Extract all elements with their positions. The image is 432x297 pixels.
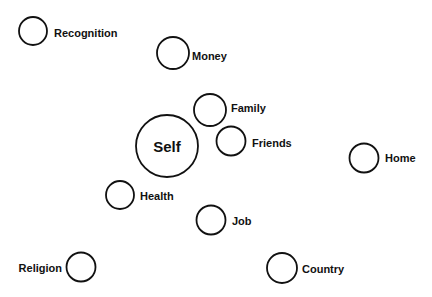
concept-diagram: Recognition Money Family Self Friends Ho… bbox=[0, 0, 432, 297]
money-label: Money bbox=[192, 50, 228, 62]
friends-label: Friends bbox=[252, 137, 292, 149]
node-money: Money bbox=[157, 37, 228, 69]
node-self: Self bbox=[136, 115, 198, 177]
health-circle bbox=[106, 181, 134, 209]
religion-label: Religion bbox=[19, 262, 63, 274]
node-family: Family bbox=[194, 94, 267, 126]
religion-circle bbox=[67, 253, 96, 282]
node-job: Job bbox=[197, 206, 252, 235]
node-country: Country bbox=[267, 253, 345, 283]
friends-circle bbox=[217, 127, 246, 156]
country-label: Country bbox=[302, 263, 345, 275]
job-label: Job bbox=[232, 215, 252, 227]
node-friends: Friends bbox=[217, 127, 292, 156]
country-circle bbox=[267, 253, 297, 283]
node-religion: Religion bbox=[19, 253, 96, 282]
self-label: Self bbox=[153, 138, 182, 155]
recognition-circle bbox=[19, 17, 47, 45]
node-recognition: Recognition bbox=[19, 17, 118, 45]
family-label: Family bbox=[231, 102, 267, 114]
home-circle bbox=[350, 144, 379, 173]
home-label: Home bbox=[385, 152, 416, 164]
node-home: Home bbox=[350, 144, 416, 173]
health-label: Health bbox=[140, 190, 174, 202]
node-health: Health bbox=[106, 181, 174, 209]
family-circle bbox=[194, 94, 226, 126]
money-circle bbox=[157, 37, 189, 69]
job-circle bbox=[197, 206, 226, 235]
recognition-label: Recognition bbox=[54, 27, 118, 39]
